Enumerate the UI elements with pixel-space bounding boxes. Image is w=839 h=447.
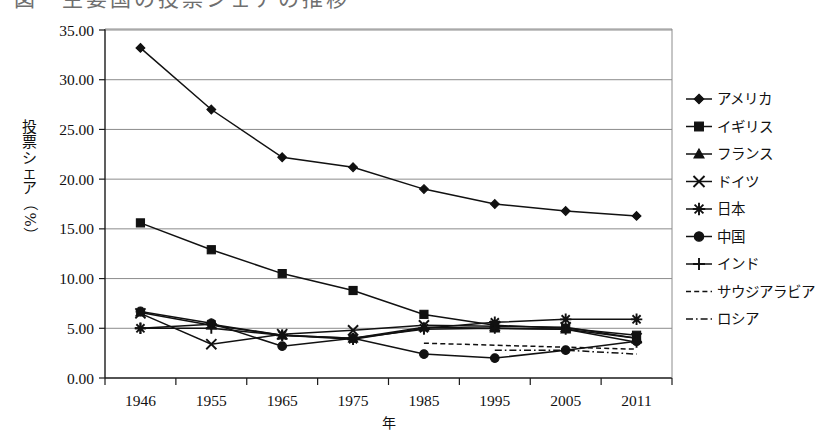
data-series-layer: [135, 43, 643, 362]
series-marker-diamond: [490, 200, 499, 209]
data-series: [136, 43, 641, 220]
y-axis-tick-label: 5.00: [67, 320, 94, 337]
x-axis-tick-label: 1955: [196, 392, 227, 409]
x-axis-tick-label: 1965: [267, 392, 298, 409]
chart-plot-area: 19461955196519751985199520052011 0.005.0…: [0, 0, 839, 447]
legend-item-label: サウジアラビア: [717, 284, 815, 300]
y-axis-tick-label: 35.00: [59, 22, 94, 39]
series-marker-diamond: [278, 153, 287, 162]
x-axis-tick-label: 2011: [621, 392, 651, 409]
y-axis-tick-label: 10.00: [59, 270, 94, 287]
series-marker-square: [278, 270, 286, 278]
series-marker-circle: [136, 307, 145, 316]
series-marker-diamond: [420, 185, 429, 194]
legend-marker-plus: [693, 258, 705, 270]
chart-figure: 図 主要国の投票シェアの推移 投票シェア（%） 1946195519651975…: [0, 0, 839, 447]
legend-item[interactable]: イギリス: [686, 119, 773, 135]
series-marker-circle: [278, 342, 287, 351]
x-axis-tick-label: 1946: [125, 392, 156, 409]
legend-marker-circle: [694, 232, 703, 241]
x-axis-tick-label: 1975: [338, 392, 369, 409]
y-axis-title-char: ）: [18, 227, 40, 242]
y-axis-title: 投票シェア（%）: [18, 120, 40, 242]
y-axis-title-char: ア: [18, 181, 40, 196]
series-marker-circle: [491, 354, 500, 363]
x-axis-tick-label: 1995: [479, 392, 510, 409]
y-axis-title-char: （: [18, 196, 40, 211]
series-marker-asterisk: [631, 314, 642, 325]
legend-item[interactable]: ドイツ: [686, 174, 759, 190]
x-axis-tick-label: 2005: [550, 392, 581, 409]
series-marker-diamond: [349, 163, 358, 172]
legend-item-label: アメリカ: [717, 91, 772, 107]
y-axis-title-char: %: [18, 212, 40, 227]
legend-item-label: 日本: [717, 201, 745, 217]
legend-item[interactable]: インド: [686, 256, 759, 272]
legend-marker-square: [695, 122, 704, 131]
legend-item[interactable]: 中国: [686, 229, 745, 245]
figure-title-text: 図 主要国の投票シェアの推移: [14, 0, 350, 11]
legend-item-label: ロシア: [717, 311, 759, 327]
series-marker-square: [207, 246, 215, 254]
y-axis-tick-labels: 0.005.0010.0015.0020.0025.0030.0035.00: [59, 22, 94, 387]
series-marker-diamond: [561, 207, 570, 216]
x-axis-title: 年: [382, 415, 396, 431]
x-axis-ticks: [105, 378, 672, 385]
series-marker-square: [420, 310, 428, 318]
legend-item[interactable]: ロシア: [686, 311, 759, 327]
y-axis-tick-label: 0.00: [67, 370, 94, 387]
series-marker-square: [136, 219, 144, 227]
x-axis-title-text: 年: [382, 415, 396, 431]
y-axis-tick-label: 25.00: [59, 121, 94, 138]
y-axis-tick-label: 30.00: [59, 71, 94, 88]
legend-item-label: フランス: [717, 146, 773, 162]
series-polyline: [140, 48, 636, 216]
legend-item-label: ドイツ: [717, 174, 759, 190]
series-marker-square: [349, 286, 357, 294]
series-polyline: [424, 343, 637, 349]
series-marker-circle: [420, 350, 429, 359]
legend-item[interactable]: アメリカ: [686, 91, 772, 107]
x-axis-tick-labels: 19461955196519751985199520052011: [125, 392, 652, 409]
legend-item-label: 中国: [717, 229, 745, 245]
y-axis-tick-label: 15.00: [59, 220, 94, 237]
x-axis-tick-label: 1985: [408, 392, 439, 409]
y-axis-tick-label: 20.00: [59, 171, 94, 188]
legend-item[interactable]: 日本: [686, 201, 745, 217]
legend-item-label: インド: [717, 256, 759, 272]
legend-item[interactable]: フランス: [686, 146, 773, 162]
gridlines: [105, 30, 672, 328]
data-series: [424, 343, 637, 349]
y-axis-ticks: [99, 30, 105, 378]
chart-legend: アメリカイギリスフランスドイツ日本中国インドサウジアラビアロシア: [686, 91, 815, 327]
legend-item[interactable]: サウジアラビア: [686, 284, 815, 300]
series-marker-asterisk: [560, 314, 571, 325]
legend-item-label: イギリス: [717, 119, 773, 135]
figure-title-clipped: 図 主要国の投票シェアの推移: [0, 0, 839, 11]
series-marker-diamond: [632, 212, 641, 221]
legend-marker-diamond: [694, 94, 704, 104]
legend-marker-asterisk: [693, 203, 705, 215]
